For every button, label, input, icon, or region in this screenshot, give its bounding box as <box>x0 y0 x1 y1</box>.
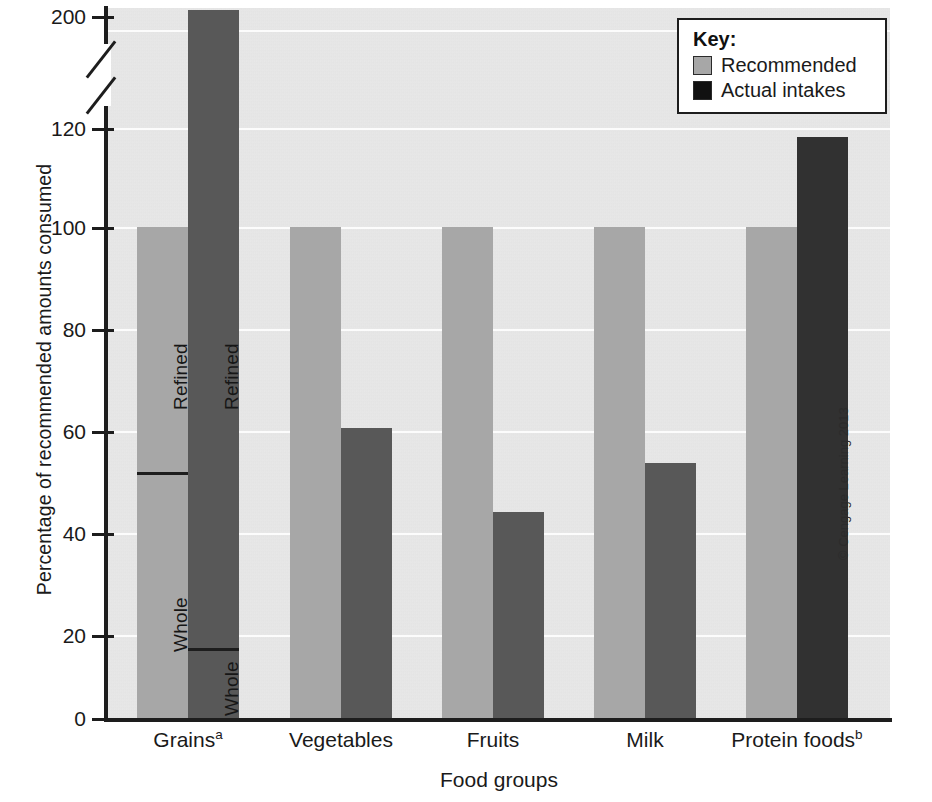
bar-fruits-recommended <box>442 227 493 718</box>
y-tick-label-0: 0 <box>6 708 86 729</box>
x-axis-label-fruits: Fruits <box>418 728 568 752</box>
y-tick-label-200: 200 <box>6 6 86 27</box>
tick-mark-60 <box>92 431 114 434</box>
x-axis-label-milk: Milk <box>570 728 720 752</box>
bar-label-grains-actual-whole: Whole <box>221 661 243 716</box>
x-axis-label-protein-foods-text: Protein foods <box>731 728 855 751</box>
bar-fruits-actual <box>493 512 544 718</box>
bar-milk-actual <box>645 463 696 718</box>
tick-mark-80 <box>92 329 114 332</box>
y-tick-label-60: 60 <box>6 421 86 442</box>
tick-mark-200 <box>92 16 114 19</box>
legend-item-recommended: Recommended <box>693 54 873 77</box>
x-axis-label-grains-text: Grains <box>153 728 215 751</box>
y-tick-label-120: 120 <box>6 118 86 139</box>
y-tick-labels: 200 120 100 80 60 40 20 0 <box>0 0 86 802</box>
x-axis-label-vegetables: Vegetables <box>266 728 416 752</box>
bar-protein-foods-recommended <box>746 227 797 718</box>
x-axis-label-vegetables-text: Vegetables <box>289 728 393 751</box>
x-axis-label-milk-text: Milk <box>626 728 663 751</box>
y-axis-line <box>104 6 108 722</box>
chart-legend: Key: Recommended Actual intakes <box>677 18 887 114</box>
x-axis-label-grains-footnote: a <box>215 727 223 742</box>
bar-label-grains-actual-refined: Refined <box>221 343 243 410</box>
legend-title: Key: <box>693 28 873 51</box>
tick-mark-0 <box>92 718 114 721</box>
y-tick-label-100: 100 <box>6 217 86 238</box>
bar-grains-recommended-divider <box>137 472 188 475</box>
x-axis-label-protein-foods-footnote: b <box>855 727 863 742</box>
bar-chart-figure: Percentage of recommended amounts consum… <box>0 0 932 802</box>
bar-vegetables-recommended <box>290 227 341 718</box>
legend-swatch-actual-intakes-icon <box>693 81 712 100</box>
y-tick-label-80: 80 <box>6 319 86 340</box>
bar-grains-actual-divider <box>188 648 239 651</box>
tick-mark-100 <box>92 227 114 230</box>
bar-vegetables-actual <box>341 428 392 718</box>
y-tick-label-40: 40 <box>6 523 86 544</box>
x-axis-label-protein-foods: Protein foodsb <box>712 728 882 752</box>
tick-mark-40 <box>92 533 114 536</box>
tick-mark-120 <box>92 128 114 131</box>
legend-label-actual-intakes: Actual intakes <box>721 79 846 102</box>
bar-milk-recommended <box>594 227 645 718</box>
tick-mark-20 <box>92 635 114 638</box>
y-tick-label-20: 20 <box>6 625 86 646</box>
copyright-credit: © Cengage Learning 2013 <box>836 360 851 560</box>
x-axis-label-fruits-text: Fruits <box>467 728 520 751</box>
x-axis-line <box>104 718 892 722</box>
x-axis-title: Food groups <box>108 768 890 792</box>
x-axis-label-grains: Grainsa <box>113 728 263 752</box>
legend-label-recommended: Recommended <box>721 54 857 77</box>
legend-swatch-recommended-icon <box>693 56 712 75</box>
legend-item-actual-intakes: Actual intakes <box>693 79 873 102</box>
